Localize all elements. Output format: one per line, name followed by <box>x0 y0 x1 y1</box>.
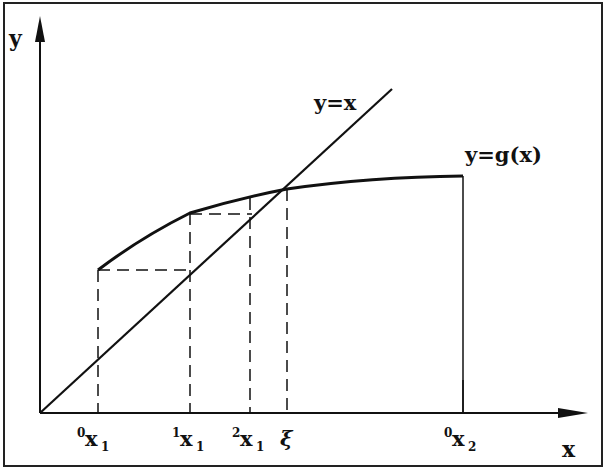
g-curve-label: y=g(x) <box>464 142 542 167</box>
identity-line-label: y=x <box>313 90 357 115</box>
svg-text:x: x <box>180 426 193 451</box>
svg-text:ξ: ξ <box>280 426 294 451</box>
y-axis-label: y <box>8 25 23 51</box>
svg-text:x: x <box>85 426 98 451</box>
svg-text:2: 2 <box>468 440 476 454</box>
tick-label-x1-2: 2 x 1 <box>232 426 264 454</box>
fixed-point-diagram: y x y=x y=g(x) 0 x 1 1 x 1 2 x 1 ξ 0 x 2 <box>0 0 606 471</box>
x-axis-label: x <box>562 436 576 462</box>
svg-text:1: 1 <box>196 440 204 454</box>
tick-label-x1-0: 0 x 1 <box>77 426 109 454</box>
svg-text:x: x <box>452 426 465 451</box>
svg-text:1: 1 <box>256 440 264 454</box>
tick-label-x2-0: 0 x 2 <box>444 426 476 454</box>
svg-text:1: 1 <box>101 440 109 454</box>
y-axis-arrow-icon <box>35 16 45 42</box>
g-curve <box>98 176 463 270</box>
x-axis-arrow-icon <box>558 408 588 418</box>
tick-label-xi: ξ <box>280 426 294 451</box>
tick-label-x1-1: 1 x 1 <box>172 426 204 454</box>
svg-text:x: x <box>240 426 253 451</box>
diagram-frame <box>4 3 602 466</box>
identity-line <box>40 89 392 413</box>
